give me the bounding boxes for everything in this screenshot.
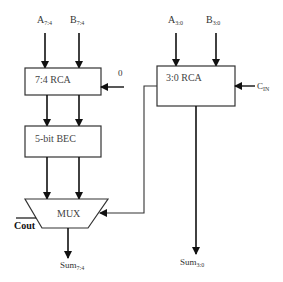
carry-zero-label: 0 [118,68,123,78]
sum-low-label: Sum3:0 [180,257,204,268]
mux-select-wire [100,86,157,213]
mux-label: MUX [57,208,81,219]
cout-label: Cout [14,220,36,231]
rca-low-block: 3:0 RCA [157,66,235,106]
input-a-low-label: A3:0 [168,14,183,26]
sum-high-label: Sum7:4 [60,260,84,271]
rca-high-label: 7:4 RCA [35,74,72,85]
carry-select-adder-diagram: A7:4 B7:4 7:4 RCA 0 5-bit BEC MUX Cout S… [0,0,283,282]
input-a-high-label: A7:4 [37,14,52,26]
input-b-low-label: B3:0 [206,14,220,26]
cin-label: CIN [257,81,270,92]
bec-label: 5-bit BEC [35,133,76,144]
bec-block: 5-bit BEC [25,126,101,157]
rca-high-block: 7:4 RCA [25,68,101,95]
input-b-high-label: B7:4 [70,14,84,26]
mux-block: MUX [25,199,108,228]
rca-low-label: 3:0 RCA [166,72,203,83]
